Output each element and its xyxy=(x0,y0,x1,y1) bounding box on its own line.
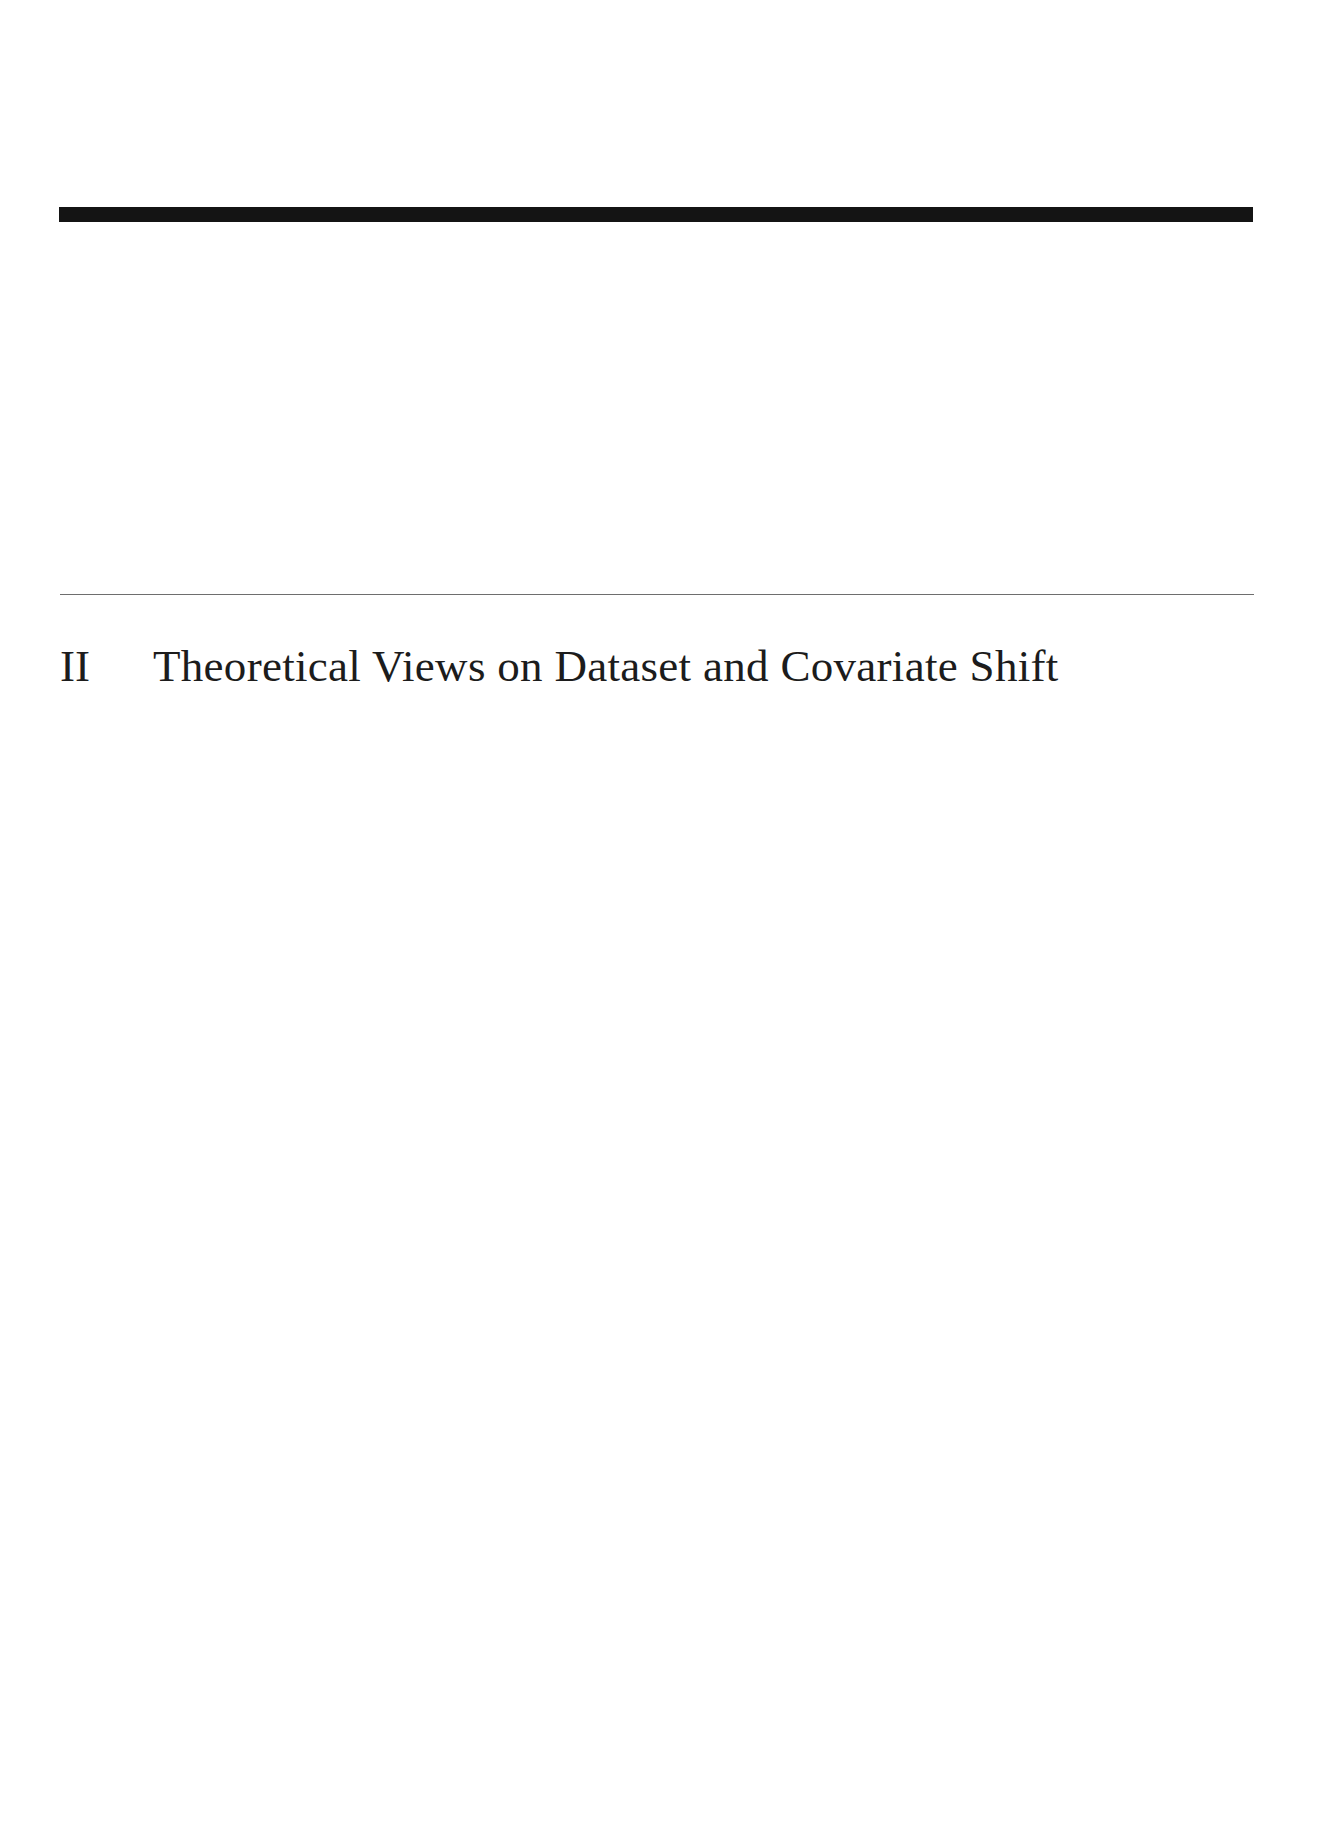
part-heading: II Theoretical Views on Dataset and Cova… xyxy=(60,636,1254,696)
part-title: Theoretical Views on Dataset and Covaria… xyxy=(153,636,1254,696)
heading-rule xyxy=(60,594,1254,595)
top-decorative-bar xyxy=(59,207,1253,222)
part-number: II xyxy=(60,636,153,696)
